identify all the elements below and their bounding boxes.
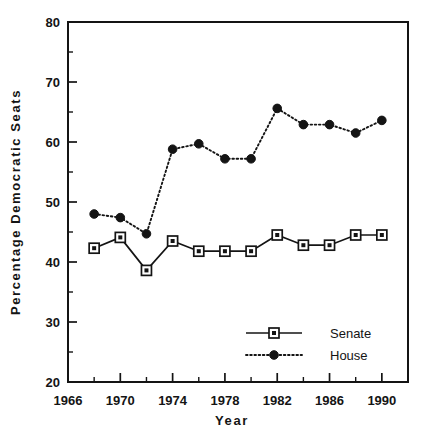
data-point-house xyxy=(142,230,151,239)
x-axis-ticks xyxy=(68,373,408,382)
data-point-house xyxy=(325,120,334,129)
data-point-house xyxy=(168,145,177,154)
data-point-house xyxy=(221,155,230,164)
y-tick-label: 50 xyxy=(46,195,60,210)
y-tick-label: 30 xyxy=(46,315,60,330)
data-point-senate-core xyxy=(223,249,227,253)
data-point-house xyxy=(90,210,99,219)
data-point-house xyxy=(299,120,308,129)
data-point-senate-core xyxy=(301,243,305,247)
legend-marker-house xyxy=(270,351,279,360)
y-axis-tick-labels: 20304050607080 xyxy=(46,15,60,390)
x-tick-label: 1974 xyxy=(158,393,188,408)
x-tick-label: 1982 xyxy=(263,393,292,408)
data-point-house xyxy=(273,104,282,113)
data-point-senate-core xyxy=(144,268,148,272)
series-line-senate xyxy=(94,235,382,270)
data-point-house xyxy=(378,116,387,125)
data-point-senate-core xyxy=(328,243,332,247)
data-point-senate-core xyxy=(354,233,358,237)
y-tick-label: 70 xyxy=(46,75,60,90)
data-point-house xyxy=(116,213,125,222)
y-tick-label: 60 xyxy=(46,135,60,150)
x-tick-label: 1990 xyxy=(367,393,396,408)
data-point-senate-core xyxy=(380,233,384,237)
x-tick-label: 1966 xyxy=(54,393,83,408)
y-axis-ticks xyxy=(68,22,77,382)
data-point-senate-core xyxy=(197,249,201,253)
series-house xyxy=(90,104,386,238)
line-chart: 20304050607080 1966197019741978198219861… xyxy=(0,0,428,439)
data-point-senate-core xyxy=(118,235,122,239)
data-point-house xyxy=(247,155,256,164)
data-point-house xyxy=(351,129,360,138)
data-point-senate-core xyxy=(92,246,96,250)
chart-container: 20304050607080 1966197019741978198219861… xyxy=(0,0,428,439)
x-tick-label: 1978 xyxy=(210,393,239,408)
series-senate xyxy=(89,230,387,275)
data-point-senate-core xyxy=(171,239,175,243)
x-tick-label: 1986 xyxy=(315,393,344,408)
legend-item-senate[interactable]: Senate xyxy=(246,326,371,341)
y-axis-title: Percentage Democratic Seats xyxy=(8,89,23,315)
x-tick-label: 1970 xyxy=(106,393,135,408)
legend-label-house: House xyxy=(330,348,368,363)
data-point-house xyxy=(194,140,203,149)
x-axis-tick-labels: 1966197019741978198219861990 xyxy=(54,393,397,408)
legend-item-house[interactable]: House xyxy=(246,348,368,363)
data-point-senate-core xyxy=(275,233,279,237)
data-series-layer xyxy=(89,104,387,275)
y-tick-label: 40 xyxy=(46,255,60,270)
y-tick-label: 20 xyxy=(46,375,60,390)
data-point-senate-core xyxy=(249,249,253,253)
chart-legend: SenateHouse xyxy=(246,326,371,363)
legend-label-senate: Senate xyxy=(330,326,371,341)
legend-marker-senate-core xyxy=(272,331,276,335)
series-line-house xyxy=(94,108,382,233)
x-axis-title: Year xyxy=(215,413,249,428)
y-tick-label: 80 xyxy=(46,15,60,30)
